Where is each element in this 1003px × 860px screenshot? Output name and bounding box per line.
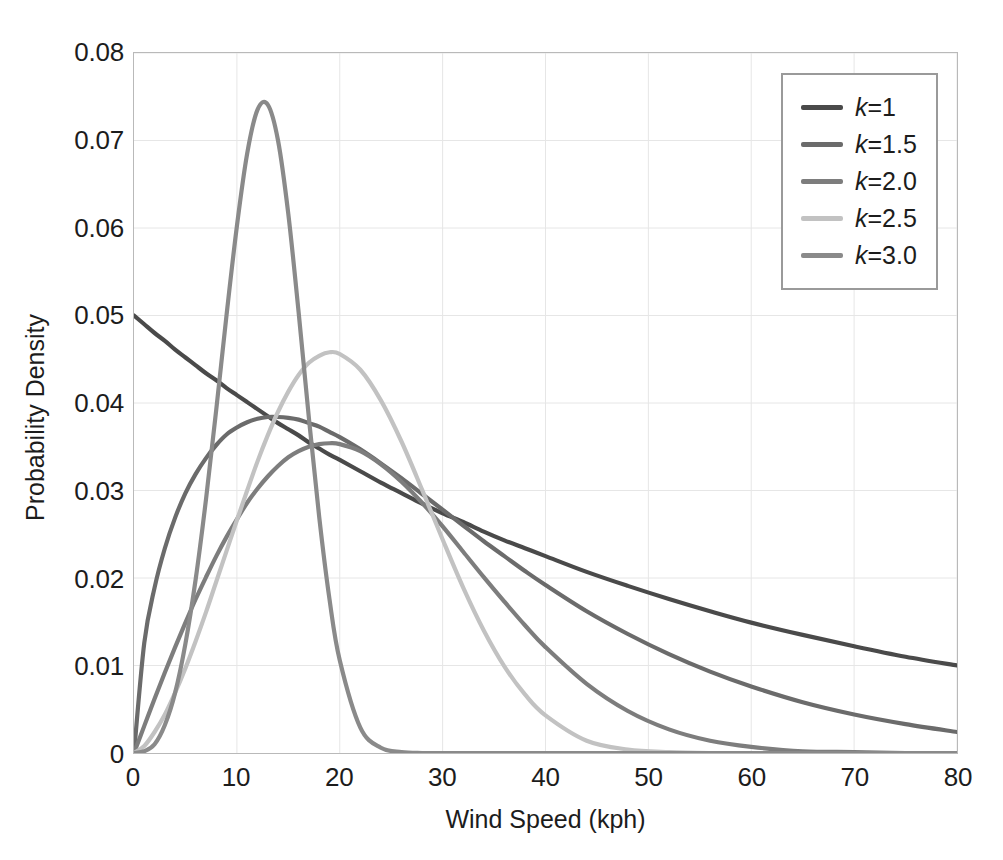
legend-item-1.5[interactable]: k=1.5 [783, 126, 936, 163]
x-tick-label: 60 [737, 762, 766, 793]
x-tick-label: 80 [944, 762, 973, 793]
legend-item-3.0[interactable]: k=3.0 [783, 237, 936, 274]
legend-swatch-icon [801, 142, 843, 147]
legend-label: k=1.5 [855, 130, 917, 159]
y-tick-label: 0.07 [74, 124, 124, 155]
x-axis-title: Wind Speed (kph) [133, 805, 958, 834]
y-tick-label: 0.06 [74, 212, 124, 243]
x-tick-label: 20 [325, 762, 354, 793]
x-tick-label: 30 [428, 762, 457, 793]
y-tick-label: 0.03 [74, 475, 124, 506]
chart-figure: 00.010.020.030.040.050.060.070.08 Probab… [0, 0, 1003, 860]
x-tick-label: 50 [634, 762, 663, 793]
y-tick-label: 0.04 [74, 388, 124, 419]
legend-item-2.5[interactable]: k=2.5 [783, 200, 936, 237]
legend-item-2.0[interactable]: k=2.0 [783, 163, 936, 200]
legend-swatch-icon [801, 105, 843, 110]
chart-legend: k=1k=1.5k=2.0k=2.5k=3.0 [781, 73, 938, 290]
y-tick-label: 0.01 [74, 651, 124, 682]
curve-k=2.0 [134, 443, 957, 753]
legend-swatch-icon [801, 216, 843, 221]
y-axis-title: Probability Density [21, 288, 50, 548]
y-axis-tick-labels: 00.010.020.030.040.050.060.070.08 [0, 52, 124, 754]
legend-swatch-icon [801, 253, 843, 258]
legend-swatch-icon [801, 179, 843, 184]
x-axis-tick-labels: 01020304050607080 [133, 762, 958, 802]
legend-label: k=2.5 [855, 204, 917, 233]
x-tick-label: 0 [126, 762, 140, 793]
x-tick-label: 40 [531, 762, 560, 793]
curve-k=2.5 [134, 352, 957, 753]
legend-label: k=2.0 [855, 167, 917, 196]
legend-label: k=1 [855, 93, 896, 122]
legend-item-1[interactable]: k=1 [783, 89, 936, 126]
x-tick-label: 10 [222, 762, 251, 793]
y-tick-label: 0.08 [74, 37, 124, 68]
legend-label: k=3.0 [855, 241, 917, 270]
y-tick-label: 0.05 [74, 300, 124, 331]
x-tick-label: 70 [841, 762, 870, 793]
y-tick-label: 0.02 [74, 563, 124, 594]
y-tick-label: 0 [110, 739, 124, 770]
